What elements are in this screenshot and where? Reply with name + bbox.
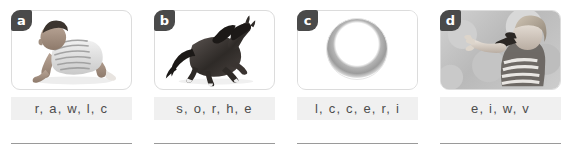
panel-badge-d: d xyxy=(440,10,461,31)
panel-badge-b: b xyxy=(154,10,175,31)
panel-a: a r, a, w, l, c xyxy=(0,0,143,159)
panel-badge-c: c xyxy=(297,10,318,31)
worksheet: a r, a, w, l, c xyxy=(0,0,572,159)
answer-line-a[interactable] xyxy=(11,143,132,144)
answer-line-d[interactable] xyxy=(440,143,561,144)
panel-c: c l, c, c, e, r, i xyxy=(286,0,429,159)
panel-badge-a: a xyxy=(11,10,32,31)
panel-b: b s, o, r, h, e xyxy=(143,0,286,159)
letter-strip-a: r, a, w, l, c xyxy=(11,97,132,120)
panel-d: d e, i, w, v xyxy=(429,0,572,159)
letter-strip-d: e, i, w, v xyxy=(440,97,561,120)
letter-strip-c: l, c, c, e, r, i xyxy=(297,97,418,120)
answer-line-c[interactable] xyxy=(297,143,418,144)
letter-strip-b: s, o, r, h, e xyxy=(154,97,275,120)
answer-line-b[interactable] xyxy=(154,143,275,144)
